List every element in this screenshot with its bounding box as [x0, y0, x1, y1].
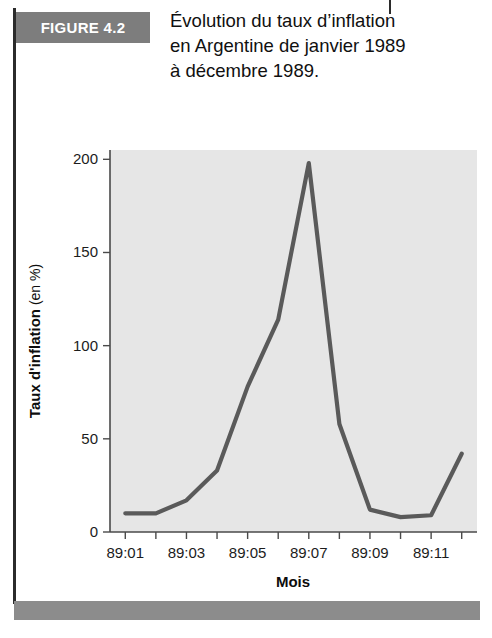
y-axis-ticks: [103, 159, 110, 532]
figure-caption-line-3: à décembre 1989.: [170, 58, 470, 83]
y-axis-title-bold: Taux d'inflation: [26, 309, 43, 418]
y-axis-tick-label: 200: [73, 150, 98, 167]
x-axis-tick-label: 89:07: [290, 544, 328, 561]
y-axis-title: Taux d'inflation (en %): [26, 264, 43, 418]
chart-svg: 050100150200 89:0189:0389:0589:0789:0989…: [0, 130, 492, 600]
x-axis-title: Mois: [276, 573, 310, 590]
x-axis-tick-label: 89:11: [413, 544, 449, 561]
x-axis-tick-label: 89:09: [351, 544, 389, 561]
figure-caption-line-1: Évolution du taux d’inflation: [170, 8, 470, 33]
x-axis-tick-label: 89:03: [168, 544, 206, 561]
x-axis-tick-label: 89:01: [107, 544, 145, 561]
y-axis-tick-label: 100: [73, 337, 98, 354]
figure-number-badge: FIGURE 4.2: [16, 12, 150, 43]
plot-area-background: [110, 150, 477, 532]
figure-caption: Évolution du taux d’inflation en Argenti…: [170, 8, 470, 83]
x-axis-tick-labels: 89:0189:0389:0589:0789:0989:11: [107, 544, 450, 561]
x-axis-tick-label: 89:05: [229, 544, 267, 561]
x-axis-ticks: [125, 532, 461, 539]
y-axis-tick-label: 150: [73, 243, 98, 260]
y-axis-tick-label: 0: [90, 523, 98, 540]
y-axis-title-group: Taux d'inflation (en %): [26, 264, 43, 418]
page-bottom-bar: [14, 601, 480, 620]
y-axis-title-units: (en %): [27, 264, 43, 309]
inflation-line-chart: 050100150200 89:0189:0389:0589:0789:0989…: [0, 130, 492, 600]
y-axis-tick-label: 50: [81, 430, 98, 447]
figure-caption-line-2: en Argentine de janvier 1989: [170, 33, 470, 58]
y-axis-tick-labels: 050100150200: [73, 150, 98, 540]
figure-number-label: FIGURE 4.2: [41, 19, 126, 36]
